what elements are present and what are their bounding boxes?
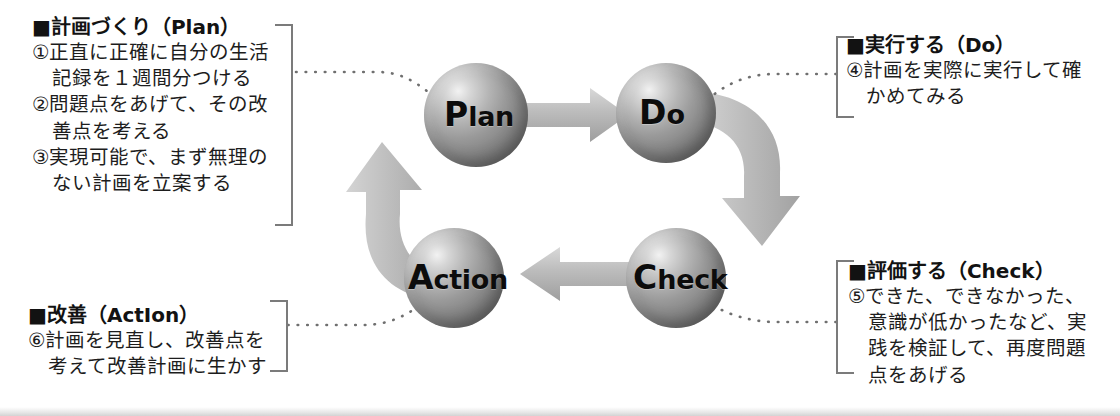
text-block-plan-line-3: ②問題点をあげて、その改 [32, 92, 269, 118]
node-label-action-initial: A [408, 258, 434, 297]
node-label-plan-rest: lan [468, 101, 514, 132]
bracket-action [270, 300, 288, 372]
node-label-check-initial: C [633, 258, 657, 297]
connector-action [288, 308, 416, 325]
bracket-plan [275, 24, 293, 226]
text-block-plan-line-1: ①正直に正確に自分の生活 [32, 40, 269, 66]
text-block-plan-line-6: ない計画を立案する [32, 171, 269, 197]
connector-do [712, 74, 836, 96]
node-label-plan: Plan [444, 98, 514, 131]
connector-plan [296, 72, 432, 95]
text-block-do-heading: ■実行する（Do） [846, 32, 1082, 58]
node-label-action-rest: ction [434, 264, 508, 295]
text-block-do: ■実行する（Do） ④計画を実際に実行して確 かめてみる [846, 32, 1082, 110]
node-label-check: Check [633, 261, 728, 294]
text-block-action-heading: ■改善（ActIon） [28, 302, 267, 328]
text-block-action: ■改善（ActIon） ⑥計画を見直し、改善点を 考えて改善計画に生かす [28, 302, 267, 380]
node-label-plan-initial: P [444, 95, 468, 134]
node-label-do-rest: o [666, 99, 684, 130]
text-block-check-heading: ■評価する（Check） [848, 258, 1087, 284]
text-block-action-line-1: ⑥計画を見直し、改善点を [28, 328, 267, 354]
node-label-check-rest: heck [657, 264, 727, 295]
text-block-check-line-4: 点をあげる [848, 363, 1087, 389]
text-block-check-line-2: 意識が低かったなど、実 [848, 310, 1087, 336]
text-block-plan-line-2: 記録を１週間分つける [32, 66, 269, 92]
text-block-do-line-1: ④計画を実際に実行して確 [846, 58, 1082, 84]
text-block-check: ■評価する（Check） ⑤できた、できなかった、 意識が低かったなど、実 践を… [848, 258, 1087, 389]
text-block-check-line-3: 践を検証して、再度問題 [848, 336, 1087, 362]
node-label-do-initial: D [639, 93, 666, 132]
pdca-diagram: Plan Do Check Action ■計画づくり（Plan） ①正直に正確… [0, 0, 1120, 416]
connector-check [714, 306, 836, 322]
text-block-do-line-2: かめてみる [846, 84, 1082, 110]
text-block-action-line-2: 考えて改善計画に生かす [28, 354, 267, 380]
text-block-plan-line-5: ③実現可能で、まず無理の [32, 145, 269, 171]
text-block-plan: ■計画づくり（Plan） ①正直に正確に自分の生活 記録を１週間分つける ②問題… [32, 14, 269, 197]
arrow-check-to-action [520, 247, 637, 301]
text-block-plan-line-4: 善点を考える [32, 119, 269, 145]
node-label-action: Action [408, 261, 508, 294]
node-label-do: Do [639, 96, 685, 129]
text-block-plan-heading: ■計画づくり（Plan） [32, 14, 269, 40]
arrow-plan-to-do [515, 88, 628, 142]
text-block-check-line-1: ⑤できた、できなかった、 [848, 284, 1087, 310]
scan-edge-artifact [0, 407, 1120, 416]
